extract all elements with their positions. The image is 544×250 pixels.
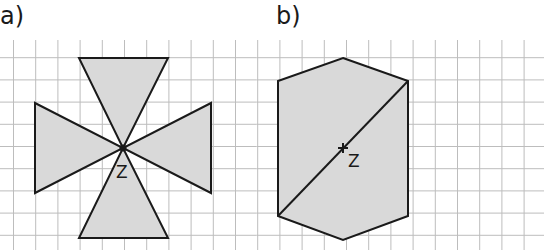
center-label-a: Z [116,162,128,182]
center-label-b: Z [348,151,360,171]
figure-a: Z [35,58,211,238]
diagram-canvas: Z Z [0,0,544,250]
center-point-a [120,145,127,152]
figure-b: Z [278,58,408,240]
